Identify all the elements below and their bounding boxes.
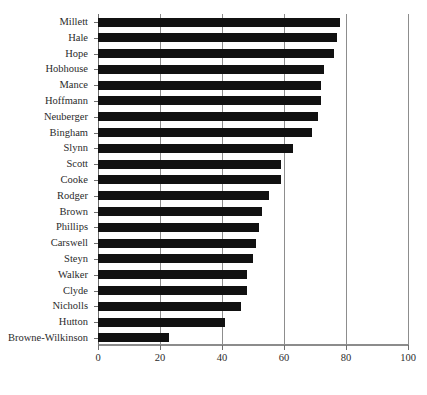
bar-row [98,143,408,153]
bar-row [98,128,408,138]
bar [98,333,169,342]
bar-row [98,286,408,296]
y-axis-label: Cooke [0,175,94,185]
x-axis-tick [98,345,99,350]
y-axis-label: Steyn [0,254,94,264]
bar-row [98,17,408,27]
y-axis-label: Hobhouse [0,64,94,74]
x-axis-tick-label: 40 [217,351,228,365]
bar-row [98,175,408,185]
bar-rows [98,14,408,345]
x-axis-tick-label: 20 [155,351,166,365]
bar-row [98,96,408,106]
bar-row [98,64,408,74]
x-axis-tick-labels: 020406080100 [98,351,408,367]
y-axis-label: Bingham [0,128,94,138]
bar-row [98,222,408,232]
y-axis-label: Clyde [0,286,94,296]
plot-area [98,14,408,345]
bar [98,318,225,327]
bar [98,33,337,42]
bar-row [98,333,408,343]
bar [98,223,259,232]
y-axis-label: Neuberger [0,112,94,122]
bar [98,112,318,121]
y-axis-labels: MillettHaleHopeHobhouseManceHoffmannNeub… [0,14,94,345]
x-axis-tick-marks [98,345,408,350]
bar [98,96,321,105]
bar-row [98,270,408,280]
bar [98,302,241,311]
bar [98,286,247,295]
y-axis-label: Brown [0,207,94,217]
x-axis-tick-label: 100 [400,351,416,365]
y-axis-label: Millett [0,17,94,27]
bar [98,128,312,137]
y-axis-label: Mance [0,80,94,90]
x-axis-tick-label: 80 [341,351,352,365]
bar [98,18,340,27]
bar-row [98,207,408,217]
bar-row [98,317,408,327]
y-axis-label: Walker [0,270,94,280]
x-axis-tick [160,345,161,350]
x-axis-tick [346,345,347,350]
y-axis-label: Slynn [0,143,94,153]
y-axis-label: Hope [0,49,94,59]
y-axis-label: Scott [0,159,94,169]
bar-row [98,80,408,90]
bar [98,239,256,248]
y-axis-label: Hoffmann [0,96,94,106]
gridline [408,14,409,345]
bar [98,175,281,184]
y-axis-label: Nicholls [0,301,94,311]
bar [98,254,253,263]
y-axis-label: Hutton [0,317,94,327]
y-axis-label: Rodger [0,191,94,201]
bar [98,81,321,90]
bar [98,49,334,58]
bar-chart: MillettHaleHopeHobhouseManceHoffmannNeub… [0,0,427,395]
y-axis-label: Browne-Wilkinson [0,333,94,343]
x-axis-tick [408,345,409,350]
x-axis-tick-label: 60 [279,351,290,365]
bar-row [98,191,408,201]
y-axis-label: Hale [0,33,94,43]
bar [98,160,281,169]
x-axis-tick [222,345,223,350]
bar [98,65,324,74]
bar-row [98,301,408,311]
bar-row [98,49,408,59]
bar-row [98,238,408,248]
bar-row [98,159,408,169]
x-axis-tick [284,345,285,350]
bar [98,207,262,216]
x-axis-tick-label: 0 [95,351,100,365]
bar [98,144,293,153]
bar [98,270,247,279]
bar-row [98,254,408,264]
y-axis-label: Carswell [0,238,94,248]
y-axis-label: Phillips [0,222,94,232]
bar-row [98,33,408,43]
bar [98,191,269,200]
bar-row [98,112,408,122]
